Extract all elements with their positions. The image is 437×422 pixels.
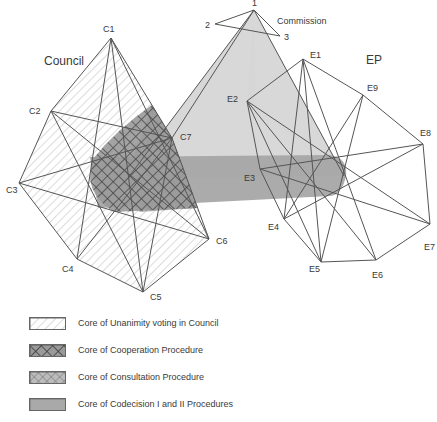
coarse-crosshatch-swatch-icon [29,344,66,357]
vertex-label-commission-2: 2 [205,20,210,30]
vertex-label-e2: E2 [227,94,238,104]
ep-group-label: EP [366,53,382,67]
core-procedures-diagram: Council Commission EP C1 C2 C3 C4 C5 C6 … [0,0,437,422]
vertex-label-e3: E3 [244,173,255,183]
legend-item-unanimity: Core of Unanimity voting in Council [29,315,219,331]
vertex-label-c6: C6 [216,236,228,246]
vertex-label-c3: C3 [6,185,18,195]
vertex-label-c5: C5 [150,292,162,302]
legend-item-codecision: Core of Codecision I and II Procedures [29,396,233,412]
legend-label: Core of Unanimity voting in Council [78,318,219,328]
vertex-label-e1: E1 [310,50,321,60]
vertex-label-c4: C4 [62,264,74,274]
vertex-label-e6: E6 [372,270,383,280]
vertex-label-commission-1: 1 [252,0,257,8]
vertex-label-e5: E5 [309,264,320,274]
vertex-label-c1: C1 [103,24,115,34]
commission-group-label: Commission [277,16,327,26]
vertex-label-c2: C2 [29,106,41,116]
fine-crosshatch-swatch-icon [29,371,66,384]
legend-label: Core of Consultation Procedure [78,372,204,382]
council-group-label: Council [44,54,84,68]
vertex-label-c7: C7 [180,132,192,142]
vertex-label-e4: E4 [268,222,279,232]
legend-label: Core of Codecision I and II Procedures [78,399,233,409]
vertex-label-commission-3: 3 [284,32,289,42]
vertex-label-e9: E9 [367,83,378,93]
legend-item-cooperation: Core of Cooperation Procedure [29,342,203,358]
legend-label: Core of Cooperation Procedure [78,345,203,355]
diagonal-hatch-swatch-icon [29,317,66,330]
legend-item-consultation: Core of Consultation Procedure [29,369,204,385]
vertex-label-e7: E7 [424,242,435,252]
vertex-label-e8: E8 [420,128,431,138]
grey-fill-swatch-icon [29,398,66,411]
